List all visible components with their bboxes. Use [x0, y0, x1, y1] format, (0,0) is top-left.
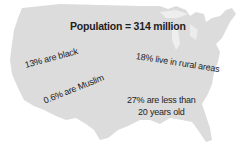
fact-youth-line1: 27% are less than — [127, 94, 196, 106]
fact-youth-population: 27% are less than 20 years old — [127, 94, 196, 118]
fact-youth-line2: 20 years old — [127, 106, 196, 118]
population-title: Population = 314 million — [70, 20, 186, 32]
